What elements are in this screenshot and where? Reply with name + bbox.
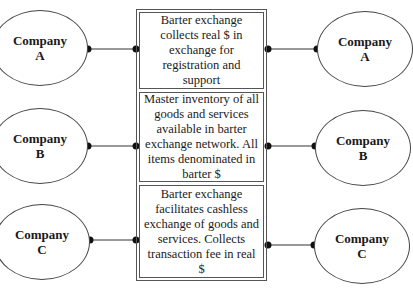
company-label: Company xyxy=(336,133,390,148)
box-master-inventory-text: Master inventory of all goods and servic… xyxy=(144,92,259,182)
company-a-right: Company A xyxy=(317,11,413,87)
company-label: Company xyxy=(15,227,69,242)
company-letter: C xyxy=(357,246,366,261)
box-transaction-text: Barter exchange facilitates cashless exc… xyxy=(144,187,259,277)
box-master-inventory: Master inventory of all goods and servic… xyxy=(139,92,264,182)
company-letter: A xyxy=(360,49,369,64)
company-letter: C xyxy=(37,242,46,257)
company-label: Company xyxy=(338,34,392,49)
company-b-right: Company B xyxy=(315,110,411,186)
company-label: Company xyxy=(335,231,389,246)
box-registration: Barter exchange collects real $ in excha… xyxy=(139,12,264,89)
company-c-right: Company C xyxy=(314,208,410,284)
box-transaction: Barter exchange facilitates cashless exc… xyxy=(139,185,264,278)
company-label: Company xyxy=(13,33,67,48)
company-letter: A xyxy=(35,48,44,63)
company-letter: B xyxy=(36,146,45,161)
box-registration-text: Barter exchange collects real $ in excha… xyxy=(144,13,259,88)
company-letter: B xyxy=(359,148,368,163)
company-label: Company xyxy=(13,131,67,146)
